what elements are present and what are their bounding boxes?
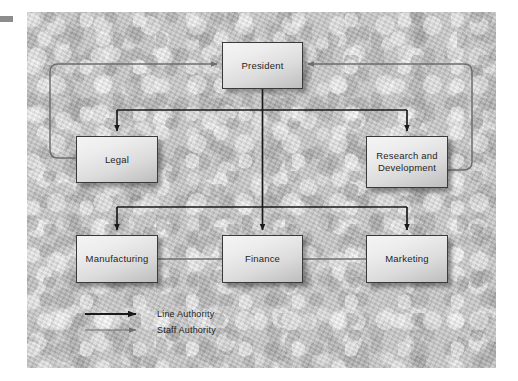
line-authority-arrow-icon bbox=[84, 307, 146, 321]
legend-item-line-authority: Line Authority bbox=[84, 306, 216, 322]
org-node-legal[interactable]: Legal bbox=[76, 136, 158, 183]
org-node-marketing[interactable]: Marketing bbox=[366, 235, 448, 283]
legend-label: Staff Authority bbox=[157, 325, 216, 335]
org-node-label: President bbox=[242, 60, 284, 72]
org-node-label: Manufacturing bbox=[86, 253, 149, 265]
org-node-label: Finance bbox=[245, 253, 280, 265]
legend-item-staff-authority: Staff Authority bbox=[84, 322, 216, 338]
org-node-manufacturing[interactable]: Manufacturing bbox=[76, 235, 158, 283]
org-node-finance[interactable]: Finance bbox=[222, 235, 303, 283]
org-node-label: Legal bbox=[105, 154, 129, 166]
legend: Line Authority Staff Authority bbox=[84, 306, 216, 338]
legend-label: Line Authority bbox=[157, 309, 214, 319]
staff-authority-arrow-icon bbox=[84, 323, 146, 337]
org-node-president[interactable]: President bbox=[222, 42, 303, 89]
org-node-label: Marketing bbox=[385, 253, 429, 265]
org-node-research-and-development[interactable]: Research and Development bbox=[366, 136, 448, 188]
corner-dash-mark bbox=[0, 16, 13, 22]
org-node-label: Research and Development bbox=[376, 150, 438, 174]
